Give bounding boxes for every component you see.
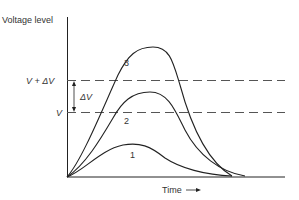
x-axis-label: Time — [162, 185, 182, 195]
upper-level-label: V + ΔV — [26, 76, 55, 86]
curve-3-label: 3 — [124, 58, 129, 68]
lower-level-label: V — [56, 108, 63, 118]
curve-2-label: 2 — [124, 116, 129, 126]
curve-1 — [67, 144, 232, 177]
arrow-up-icon — [72, 81, 76, 86]
y-axis-label: Voltage level — [2, 15, 53, 25]
arrow-down-icon — [72, 107, 76, 112]
curve-1-label: 1 — [130, 150, 135, 160]
voltage-diagram: Voltage level V + ΔV V ΔV 3 2 1 Time — [0, 0, 299, 200]
delta-v-label: ΔV — [79, 92, 93, 102]
arrow-right-icon — [196, 188, 201, 192]
